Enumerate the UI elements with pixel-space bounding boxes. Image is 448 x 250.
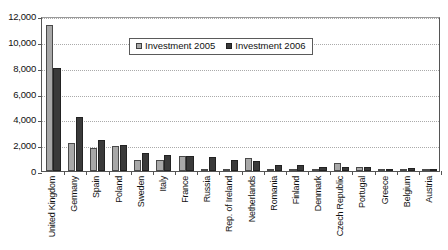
x-axis-tick-label: Czech Republic [329, 174, 351, 250]
bar-group [64, 18, 86, 171]
x-axis-tick-label: Rep. of Ireland [218, 174, 240, 250]
y-axis-tick-label: 6,000 [13, 90, 36, 100]
bar-group [86, 18, 108, 171]
legend-item: Investment 2006 [226, 41, 305, 51]
bar [223, 169, 230, 171]
bar-group [419, 18, 441, 171]
x-axis-label-text: Spain [92, 176, 101, 198]
bar [68, 143, 75, 171]
x-axis-tick-label: Sweden [130, 174, 152, 250]
bar [364, 167, 371, 171]
bar [267, 169, 274, 171]
x-axis-label-text: Germany [70, 176, 79, 212]
bar [289, 169, 296, 171]
x-axis-tick-label: Spain [85, 174, 107, 250]
x-axis-tick-label: Finland [285, 174, 307, 250]
bar-group [330, 18, 352, 171]
bar-group [397, 18, 419, 171]
x-axis-tick-label: Germany [63, 174, 85, 250]
chart-legend: Investment 2005Investment 2006 [129, 38, 313, 55]
legend-swatch-2006-icon [226, 43, 232, 49]
y-axis-tick-label: 4,000 [13, 116, 36, 126]
bar [319, 167, 326, 171]
bar [334, 163, 341, 171]
bar [342, 167, 349, 171]
x-axis-label-text: Romania [269, 176, 278, 211]
bar-group [352, 18, 374, 171]
x-axis-label-text: United Kingdom [48, 176, 57, 237]
bar [386, 169, 393, 171]
y-axis-tick-label: 8,000 [13, 64, 36, 74]
x-axis-tick-label: Portugal [351, 174, 373, 250]
legend-item: Investment 2005 [136, 41, 215, 51]
x-axis-label-text: Rep. of Ireland [225, 176, 234, 232]
bar [112, 146, 119, 171]
bar [378, 169, 385, 171]
bar-group [109, 18, 131, 171]
legend-label: Investment 2005 [145, 41, 215, 51]
legend-swatch-2005-icon [136, 43, 142, 49]
bar [312, 169, 319, 171]
bar-chart: 02,0004,0006,0008,00010,00012,000 United… [0, 0, 448, 250]
bar [98, 140, 105, 171]
bar [245, 158, 252, 171]
bar [53, 68, 60, 171]
x-axis-label-text: Poland [114, 176, 123, 203]
y-axis-tick-label: 0 [31, 167, 36, 177]
bar-group [375, 18, 397, 171]
bar-group [42, 18, 64, 171]
x-axis-label-text: Sweden [136, 176, 145, 207]
x-axis-label-text: Belgium [402, 176, 411, 207]
bar [408, 168, 415, 171]
x-axis-tick-label: Poland [108, 174, 130, 250]
x-axis-tick-label: France [174, 174, 196, 250]
x-axis-tick-label: Romania [263, 174, 285, 250]
x-axis-tick-mark [441, 171, 442, 175]
bar [120, 145, 127, 171]
x-axis-label-text: France [181, 176, 190, 203]
bar [134, 160, 141, 171]
x-axis-label-text: Finland [291, 176, 300, 204]
x-axis-tick-label: Denmark [307, 174, 329, 250]
y-axis: 02,0004,0006,0008,00010,00012,000 [0, 0, 36, 250]
x-axis-label-text: Portugal [358, 176, 367, 208]
bar [430, 169, 437, 171]
y-axis-tick-label: 2,000 [13, 141, 36, 151]
bar [231, 160, 238, 171]
x-axis-label-text: Austria [424, 176, 433, 203]
x-axis-tick-label: Netherlands [241, 174, 263, 250]
x-axis-label-text: Denmark [314, 176, 323, 211]
bar [400, 169, 407, 171]
bar [156, 160, 163, 171]
bar [76, 117, 83, 171]
bar [209, 157, 216, 171]
x-axis-tick-label: Russia [196, 174, 218, 250]
bar [297, 165, 304, 171]
x-axis-label-text: Greece [380, 176, 389, 204]
legend-label: Investment 2006 [235, 41, 305, 51]
x-axis-tick-label: Belgium [396, 174, 418, 250]
bar [164, 155, 171, 171]
y-axis-tick-label: 12,000 [8, 12, 36, 22]
x-axis-label-text: Czech Republic [336, 176, 345, 236]
bar [201, 169, 208, 171]
bar [46, 25, 53, 171]
bar [90, 148, 97, 171]
bar [356, 167, 363, 171]
x-axis: United KingdomGermanySpainPolandSwedenIt… [41, 174, 440, 250]
y-axis-tick-label: 10,000 [8, 38, 36, 48]
bar [179, 156, 186, 171]
x-axis-tick-label: Greece [374, 174, 396, 250]
bar [422, 169, 429, 171]
x-axis-label-text: Russia [203, 176, 212, 202]
x-axis-label-text: Netherlands [247, 176, 256, 222]
bar [275, 165, 282, 171]
x-axis-tick-label: United Kingdom [41, 174, 63, 250]
bar [253, 161, 260, 171]
x-axis-tick-label: Austria [418, 174, 440, 250]
bar [186, 156, 193, 171]
bar [142, 153, 149, 171]
x-axis-tick-label: Italy [152, 174, 174, 250]
x-axis-label-text: Italy [158, 176, 167, 192]
